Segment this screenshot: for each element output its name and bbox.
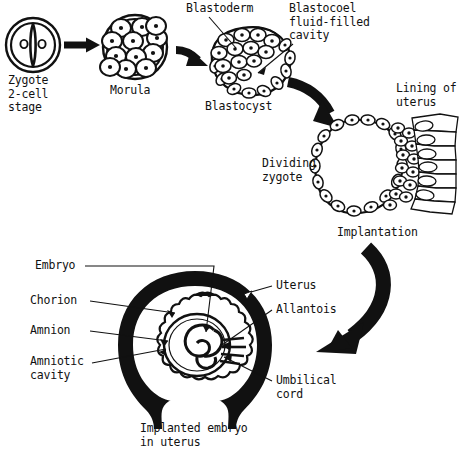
implantation-figure — [310, 114, 458, 216]
arrow-zygote-to-morula — [64, 38, 100, 53]
label-dividing-zygote: Dividing zygote — [262, 157, 316, 184]
morula-figure — [100, 15, 167, 79]
label-chorion: Chorion — [30, 294, 77, 308]
label-allantois: Allantois — [276, 303, 337, 317]
label-uterus: Uterus — [276, 279, 316, 293]
label-implantation: Implantation — [337, 226, 418, 240]
label-zygote: Zygote 2-cell stage — [8, 74, 48, 115]
label-implanted-embryo: Implanted embryo in uterus — [140, 422, 248, 449]
blastocyst-figure — [208, 27, 296, 98]
arrow-morula-to-blastocyst — [176, 50, 208, 66]
uterine-lining-cells — [411, 114, 458, 214]
label-embryo: Embryo — [35, 259, 75, 273]
label-amniotic-cavity: Amniotic cavity — [30, 355, 84, 382]
label-umbilical-cord: Umbilical cord — [276, 374, 337, 401]
label-morula: Morula — [110, 84, 150, 98]
arrow-implantation-to-embryo — [316, 248, 383, 354]
zygote-figure — [6, 18, 60, 72]
label-blastocyst: Blastocyst — [205, 100, 272, 114]
label-lining-of-uterus: Lining of uterus — [396, 82, 457, 109]
diagram-canvas: Blastoderm Blastocoel fluid-filled cavit… — [0, 0, 462, 454]
label-amnion: Amnion — [30, 324, 70, 338]
arrow-blastocyst-to-implantation — [288, 82, 338, 128]
label-blastocoel: Blastocoel fluid-filled cavity — [289, 2, 370, 43]
label-blastoderm: Blastoderm — [186, 2, 253, 16]
